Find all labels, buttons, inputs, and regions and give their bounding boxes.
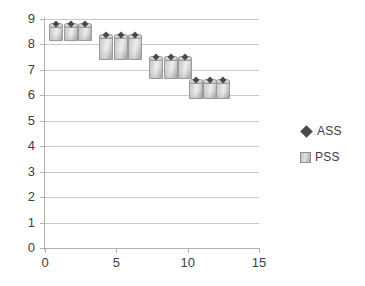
gridline-y-5 xyxy=(45,121,259,122)
y-tick-label-1: 1 xyxy=(9,216,35,229)
y-tick-8 xyxy=(40,44,45,45)
y-tick-3 xyxy=(40,172,45,173)
bar-pss-3[interactable] xyxy=(99,36,113,60)
y-tick-label-5: 5 xyxy=(9,114,35,127)
y-tick-4 xyxy=(40,146,45,147)
y-tick-1 xyxy=(40,223,45,224)
legend-label-pss: PSS xyxy=(315,150,340,164)
bar-pss-6[interactable] xyxy=(149,58,163,78)
bar-pss-9[interactable] xyxy=(189,81,203,99)
bar-pss-11[interactable] xyxy=(216,81,230,99)
gridline-y-8 xyxy=(45,44,259,45)
gridline-y-2 xyxy=(45,197,259,198)
chart-container: 0123456789 051015 ASS PSS xyxy=(0,0,365,286)
x-tick-label-15: 15 xyxy=(244,256,274,269)
diamond-marker-icon xyxy=(300,125,313,138)
bar-pss-7[interactable] xyxy=(164,58,178,78)
y-tick-label-3: 3 xyxy=(9,165,35,178)
legend-item-pss[interactable]: PSS xyxy=(300,144,362,170)
y-tick-label-8: 8 xyxy=(9,37,35,50)
gridline-y-9 xyxy=(45,19,259,20)
y-tick-2 xyxy=(40,197,45,198)
x-tick-15 xyxy=(259,248,260,253)
bar-pss-8[interactable] xyxy=(178,58,192,78)
y-tick-9 xyxy=(40,19,45,20)
x-tick-10 xyxy=(188,248,189,253)
y-axis-line xyxy=(44,17,45,250)
y-tick-label-7: 7 xyxy=(9,63,35,76)
legend-label-ass: ASS xyxy=(317,124,342,138)
gridline-y-1 xyxy=(45,223,259,224)
y-tick-label-2: 2 xyxy=(9,190,35,203)
gridline-y-4 xyxy=(45,146,259,147)
gridline-y-3 xyxy=(45,172,259,173)
y-tick-label-0: 0 xyxy=(9,241,35,254)
y-tick-7 xyxy=(40,70,45,71)
x-tick-label-10: 10 xyxy=(173,256,203,269)
bar-pss-5[interactable] xyxy=(128,36,142,60)
plot-area xyxy=(45,19,259,248)
x-tick-label-5: 5 xyxy=(101,256,131,269)
y-tick-label-4: 4 xyxy=(9,139,35,152)
y-tick-5 xyxy=(40,121,45,122)
y-tick-label-6: 6 xyxy=(9,88,35,101)
x-axis-line xyxy=(44,248,260,249)
x-tick-label-0: 0 xyxy=(30,256,60,269)
y-tick-6 xyxy=(40,95,45,96)
y-tick-label-9: 9 xyxy=(9,12,35,25)
x-tick-5 xyxy=(116,248,117,253)
bar-pss-4[interactable] xyxy=(114,36,128,60)
bar-swatch-icon xyxy=(300,152,311,163)
x-tick-0 xyxy=(45,248,46,253)
legend-item-ass[interactable]: ASS xyxy=(300,118,362,144)
chart-legend: ASS PSS xyxy=(300,118,362,170)
